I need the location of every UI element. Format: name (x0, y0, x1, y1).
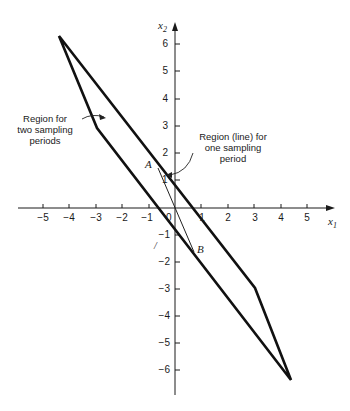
y-tick-label: 1 (162, 174, 182, 185)
x-tick-label: 4 (278, 212, 284, 223)
x-tick-label: −5 (37, 212, 48, 223)
x-tick-label: −2 (116, 212, 127, 223)
origin-label: 0 (166, 212, 172, 223)
y-tick-label: 3 (148, 120, 168, 131)
x-axis-arrow-icon (326, 205, 335, 211)
stray-mark: / (154, 240, 157, 251)
y-tick-label: 4 (148, 93, 168, 104)
y-tick-label: 2 (148, 147, 168, 158)
y-tick-label: −3 (150, 283, 170, 294)
x-axis-label: x1 (328, 216, 337, 231)
x-tick-label: −1 (141, 212, 152, 223)
x-tick-label: 1 (199, 212, 205, 223)
point-B-label: B (197, 244, 204, 255)
x-tick-label: 2 (225, 212, 231, 223)
point-A-label: A (145, 159, 152, 170)
y-tick-label: −5 (150, 337, 170, 348)
y-tick-label: −6 (150, 364, 170, 375)
y-axis-arrow-icon (172, 22, 178, 31)
y-tick-label: 5 (148, 65, 168, 76)
one-period-annotation: Region (line) for one sampling period (188, 131, 278, 164)
y-tick-label: −4 (150, 310, 170, 321)
diagram-canvas (0, 0, 350, 411)
x-tick-label: −3 (90, 212, 101, 223)
y-tick-label: 6 (148, 38, 168, 49)
x-tick-label: 3 (252, 212, 258, 223)
x-tick-label: −4 (63, 212, 74, 223)
x-tick-label: 5 (304, 212, 310, 223)
y-tick-label: −1 (150, 229, 170, 240)
phase-plane-diagram: x2 x1 0 −5 −4 −3 −2 −1 1 2 3 4 5 6 5 4 3… (0, 0, 350, 411)
y-axis-label: x2 (158, 20, 167, 35)
y-tick-label: −2 (150, 256, 170, 267)
arrowhead-icon (99, 114, 106, 120)
two-period-annotation: Region for two sampling periods (12, 113, 78, 146)
